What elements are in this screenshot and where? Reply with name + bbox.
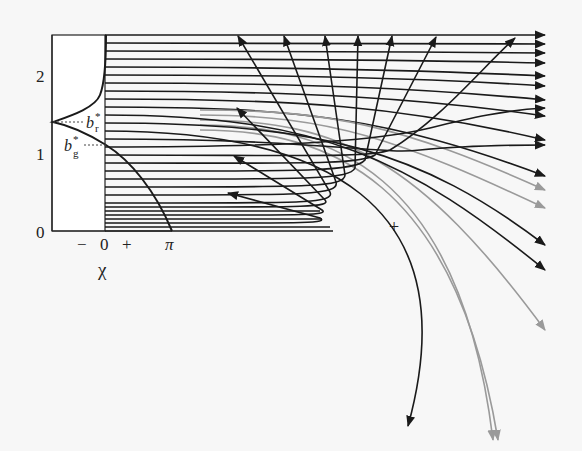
svg-text:g: g (73, 147, 79, 159)
ray-gray (200, 125, 493, 440)
x-tick-plus: + (122, 235, 132, 254)
ray (105, 75, 545, 86)
deflection-plot: 0 1 2 − 0 + π χ b * r b * g (36, 35, 174, 280)
svg-text:*: * (73, 133, 79, 145)
x-tick-pi: π (165, 235, 174, 254)
ray-gray (200, 130, 498, 440)
ray (105, 43, 545, 44)
svg-text:b: b (86, 114, 94, 131)
x-tick-zero: 0 (100, 235, 109, 254)
x-axis-label: χ (97, 259, 107, 280)
svg-text:b: b (64, 137, 72, 154)
ray (105, 36, 392, 171)
y-tick-2: 2 (36, 67, 45, 86)
scattering-diagram: 0 1 2 − 0 + π χ b * r b * g (0, 0, 582, 451)
scattering-center-marker: + (389, 217, 399, 237)
y-tick-0: 0 (36, 223, 45, 242)
svg-text:r: r (95, 122, 99, 134)
rainbow-impact-label: b * r (86, 110, 101, 134)
ray (105, 59, 545, 63)
x-tick-minus: − (77, 235, 87, 254)
ray (105, 51, 545, 53)
y-tick-1: 1 (36, 145, 45, 164)
ray (105, 108, 545, 147)
ray-gray (200, 120, 545, 330)
svg-text:*: * (95, 110, 101, 122)
